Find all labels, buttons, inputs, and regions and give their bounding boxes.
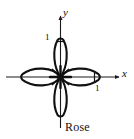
figure-caption: Rose bbox=[65, 121, 90, 134]
x-axis-label: x bbox=[122, 68, 127, 79]
rose-origin-node bbox=[50, 66, 71, 88]
rose-curve-figure: y x 1 1 Rose bbox=[0, 0, 134, 139]
rose-curve-plot bbox=[0, 0, 134, 139]
y-axis-tick-label: 1 bbox=[45, 33, 50, 42]
y-axis-label: y bbox=[63, 7, 68, 18]
x-axis-tick-label: 1 bbox=[95, 84, 100, 93]
